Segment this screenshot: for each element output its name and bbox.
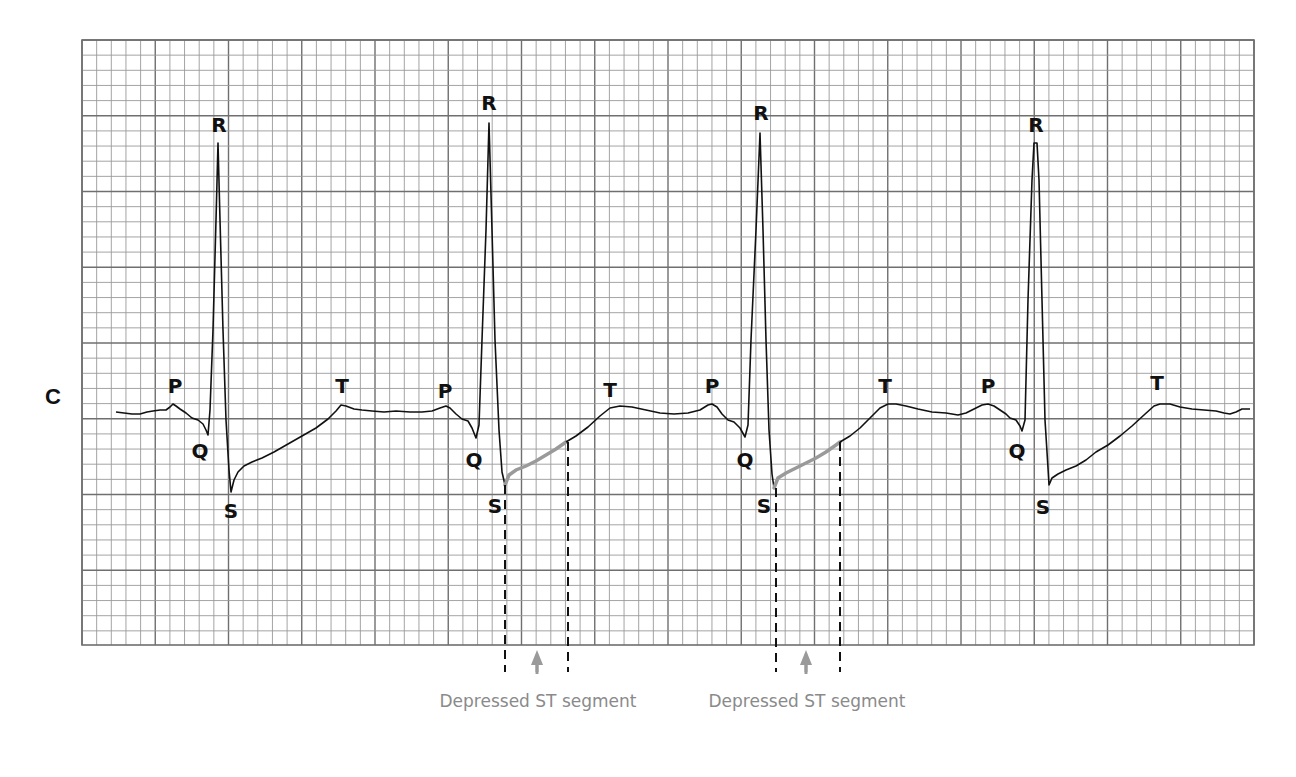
wave-label-t: T <box>878 374 892 398</box>
wave-label-r: R <box>211 113 226 137</box>
arrow-head-icon <box>531 650 543 665</box>
wave-label-q: Q <box>736 448 753 472</box>
ecg-st-segment-1 <box>505 442 566 485</box>
wave-label-p: P <box>981 374 996 398</box>
ecg-grid-paper <box>82 40 1254 645</box>
depressed-st-caption: Depressed ST segment <box>709 691 906 711</box>
wave-label-q: Q <box>1008 439 1025 463</box>
wave-label-p: P <box>438 379 453 403</box>
wave-labels: PRQSTPRQSTPRQSTPRQST <box>168 91 1165 523</box>
wave-label-s: S <box>757 494 771 518</box>
wave-label-q: Q <box>465 448 482 472</box>
arrow-head-icon <box>800 650 812 665</box>
wave-label-q: Q <box>191 439 208 463</box>
wave-label-s: S <box>488 494 502 518</box>
st-annotations: Depressed ST segmentDepressed ST segment <box>440 442 906 711</box>
wave-label-r: R <box>1028 113 1043 137</box>
wave-label-t: T <box>603 378 617 402</box>
wave-label-s: S <box>224 499 238 523</box>
wave-label-s: S <box>1036 495 1050 519</box>
depressed-st-caption: Depressed ST segment <box>440 691 637 711</box>
wave-label-r: R <box>753 101 768 125</box>
wave-label-p: P <box>705 374 720 398</box>
wave-label-p: P <box>168 374 183 398</box>
wave-label-t: T <box>1150 371 1164 395</box>
ecg-trace-2 <box>566 133 774 488</box>
ecg-diagram: PRQSTPRQSTPRQSTPRQST C Depressed ST segm… <box>0 0 1296 777</box>
lead-label: C <box>45 384 61 409</box>
wave-label-r: R <box>481 91 496 115</box>
ecg-trace <box>116 123 505 492</box>
depressed-st-annotation: Depressed ST segment <box>440 442 637 711</box>
wave-label-t: T <box>335 374 349 398</box>
depressed-st-annotation: Depressed ST segment <box>709 442 906 711</box>
